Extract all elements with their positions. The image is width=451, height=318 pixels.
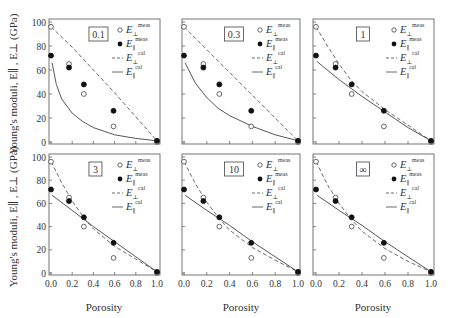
x-tick-label: 0.8 (130, 279, 142, 289)
marker-e-perp-meas (349, 224, 354, 229)
marker-e-par-meas (429, 269, 434, 274)
legend-item: E⊥cal (252, 185, 285, 200)
x-tick-label: 0.2 (201, 279, 213, 289)
curve-e-perp-cal (51, 162, 157, 272)
marker-e-perp-meas (381, 124, 386, 129)
marker-e-par-meas (333, 65, 338, 70)
marker-e-par-meas (249, 240, 254, 245)
panel-label: ∞ (359, 164, 366, 175)
marker-e-par-meas (201, 65, 206, 70)
legend-open-circle-icon (118, 163, 122, 167)
legend-label: E⊥cal (399, 50, 419, 65)
curve-e-perp-cal (316, 27, 431, 141)
legend-label: E∥cal (125, 64, 143, 79)
marker-e-par-meas (296, 269, 301, 274)
marker-e-par-meas (381, 240, 386, 245)
legend-item: E⊥meas (392, 22, 425, 37)
marker-e-par-meas (217, 215, 222, 220)
legend-open-circle-icon (392, 28, 396, 32)
legend-item: E∥cal (252, 199, 283, 214)
legend-item: E∥meas (118, 36, 149, 51)
marker-e-par-meas (111, 240, 116, 245)
marker-e-perp-meas (314, 24, 319, 29)
x-tick-label: 0.0 (310, 279, 322, 289)
marker-e-par-meas (111, 108, 116, 113)
y-tick-label: 20 (37, 114, 47, 124)
marker-e-perp-meas (249, 124, 254, 129)
legend-open-circle-icon (392, 163, 396, 167)
marker-e-perp-meas (49, 159, 54, 164)
marker-e-par-meas (201, 199, 206, 204)
chart-panel-3: 0.00.20.40.60.81.00204060801003E⊥measE∥m… (32, 153, 163, 290)
legend-label: E∥meas (125, 171, 148, 186)
legend-filled-circle-icon (258, 177, 263, 182)
marker-e-perp-meas (81, 224, 86, 229)
legend-open-circle-icon (258, 163, 262, 167)
legend-item: E⊥meas (118, 157, 151, 172)
marker-e-perp-meas (182, 159, 187, 164)
marker-e-perp-meas (49, 24, 54, 29)
curve-e-perp-cal (316, 162, 431, 272)
legend-item: E⊥meas (392, 157, 425, 172)
panel-label: 0.1 (92, 29, 105, 40)
y-tick-label: 40 (37, 90, 47, 100)
y-tick-label: 80 (37, 42, 47, 52)
legend-filled-circle-icon (392, 177, 397, 182)
x-tick-label: 0.8 (402, 279, 414, 289)
marker-e-par-meas (381, 108, 386, 113)
y-tick-label: 0 (41, 269, 46, 279)
legend-label: E∥cal (265, 64, 283, 79)
marker-e-par-meas (333, 199, 338, 204)
x-tick-label: 0.4 (356, 279, 368, 289)
legend-filled-circle-icon (258, 42, 263, 47)
x-tick-label: 1.0 (292, 279, 304, 289)
y-tick-label: 60 (37, 66, 47, 76)
marker-e-par-meas (81, 215, 86, 220)
panel-label: 10 (229, 164, 239, 175)
y-tick-label: 100 (32, 153, 47, 163)
legend-label: E∥meas (125, 36, 148, 51)
marker-e-par-meas (67, 65, 72, 70)
legend-label: E∥cal (265, 199, 283, 214)
panel-label: 0.3 (228, 29, 241, 40)
legend-item: E⊥meas (258, 157, 291, 172)
x-tick-label: 0.2 (333, 279, 345, 289)
marker-e-par-meas (182, 53, 187, 58)
legend-item: E⊥cal (386, 50, 419, 65)
curve-e-par-cal (317, 195, 431, 271)
marker-e-par-meas (349, 215, 354, 220)
y-tick-label: 0 (41, 138, 46, 148)
marker-e-par-meas (429, 138, 434, 143)
marker-e-par-meas (49, 53, 54, 58)
panel-label: 3 (93, 164, 98, 175)
legend-open-circle-icon (118, 28, 122, 32)
legend-item: E⊥cal (112, 185, 145, 200)
chart-panel-10: 0.00.20.40.60.81.010E⊥measE∥measE⊥calE∥c… (178, 154, 304, 289)
marker-e-par-meas (49, 187, 54, 192)
legend-item: E⊥cal (112, 50, 145, 65)
legend-open-circle-icon (258, 28, 262, 32)
legend-label: E⊥meas (399, 22, 425, 37)
y-tick-label: 20 (37, 245, 47, 255)
marker-e-perp-meas (349, 92, 354, 97)
chart-panel-0.1: 0204060801000.1E⊥measE∥measE⊥calE∥cal (32, 18, 160, 148)
chart-panel-1: 1E⊥measE∥measE⊥calE∥cal (313, 19, 434, 144)
legend-item: E∥meas (392, 36, 423, 51)
marker-e-par-meas (67, 199, 72, 204)
marker-e-par-meas (182, 187, 187, 192)
x-axis-title-1: Porosity (86, 301, 123, 313)
x-tick-label: 0.0 (45, 279, 57, 289)
legend-label: E⊥meas (399, 157, 425, 172)
legend-label: E∥meas (265, 171, 288, 186)
legend-item: E∥cal (112, 199, 143, 214)
legend-item: E∥meas (258, 171, 289, 186)
marker-e-par-meas (217, 82, 222, 87)
y-axis-title-bottom: Young's moduli, E∥ , E⊥ (GPa) (7, 146, 20, 287)
x-tick-label: 1.0 (151, 279, 163, 289)
legend-item: E∥cal (386, 64, 417, 79)
curve-e-par-cal (185, 195, 298, 271)
marker-e-perp-meas (381, 256, 386, 261)
marker-e-par-meas (249, 108, 254, 113)
marker-e-perp-meas (217, 92, 222, 97)
legend-label: E⊥cal (125, 50, 145, 65)
